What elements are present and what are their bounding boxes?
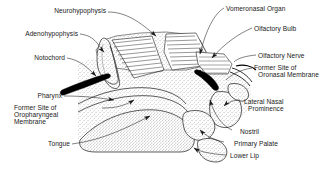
lower-lip-structure [197, 138, 226, 162]
label-notochord: Notochord [8, 54, 65, 62]
label-former-site-oropharyngeal-line3: Membrane [14, 118, 94, 126]
label-nostril: Nostril [240, 128, 284, 136]
leader-olfactory-nerve [234, 55, 256, 62]
label-olfactory-nerve: Olfactory Nerve [258, 52, 326, 60]
anatomical-figure: Neurohypophysis Adenohypophysis Notochor… [0, 0, 328, 169]
label-olfactory-bulb: Olfactory Bulb [254, 25, 326, 33]
label-adenohypophysis: Adenohypophysis [0, 30, 78, 38]
label-lower-lip: Lower Lip [230, 152, 284, 160]
label-primary-palate: Primary Palate [234, 140, 302, 148]
label-neurohypophysis: Neurohypophysis [28, 7, 106, 15]
label-former-site-oronasal-line2: Oronasal Membrane [258, 71, 328, 79]
label-pharynx: Pharynx [14, 92, 62, 100]
label-lateral-nasal-prominence-line2: Prominence [248, 105, 314, 113]
label-tongue: Tongue [24, 140, 70, 148]
label-vomeronasal-organ: Vomeronasal Organ [226, 5, 326, 13]
